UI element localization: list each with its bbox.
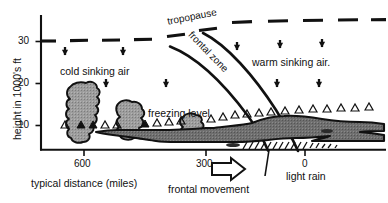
x-axis-ticks [84, 150, 305, 156]
frontal-movement-arrow[interactable] [212, 158, 245, 180]
light-rain-leader [265, 150, 269, 176]
frontal-movement-label: frontal movement [168, 184, 249, 195]
cloud-cumulus-1 [66, 82, 100, 143]
x-tick-300: 300 [196, 159, 213, 169]
y-tick-10: 10 [18, 120, 29, 130]
cold-sinking-air-label: cold sinking air [60, 66, 129, 77]
x-tick-0: 0 [302, 159, 308, 169]
x-tick-600: 600 [74, 159, 91, 169]
y-tick-30: 30 [18, 36, 29, 46]
x-axis-title: typical distance (miles) [31, 178, 137, 189]
weather-cross-section-figure: height in 1000's ft 10 20 30 600 300 0 t… [0, 0, 388, 203]
light-rain-hatching [243, 142, 337, 149]
y-tick-20: 20 [18, 78, 29, 88]
light-rain-label: light rain [286, 171, 326, 182]
warm-sinking-air-label: warm sinking air. [252, 57, 330, 68]
freezing-level-label: freezing level [148, 108, 210, 119]
